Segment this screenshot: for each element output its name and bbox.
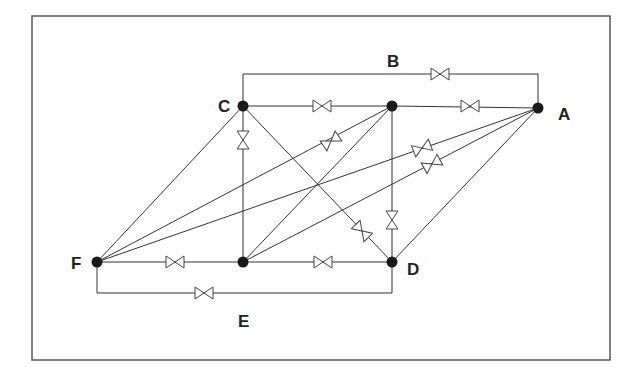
valve-icon-n2-d[interactable] [386, 211, 398, 229]
labels: CAFDBE [71, 52, 570, 331]
node-label-a: A [558, 105, 570, 124]
valve-icon-n2-a[interactable] [461, 100, 479, 112]
pipe-d-a [392, 108, 538, 262]
valve-icon-loop-e[interactable] [195, 287, 213, 299]
node-label-c: C [218, 97, 230, 116]
pipe-n5-a [243, 108, 538, 262]
valve-icon-loop-b[interactable] [431, 68, 449, 80]
valve-icon-f-n5[interactable] [166, 256, 184, 268]
node-d [387, 257, 398, 268]
loop-label-e: E [238, 312, 249, 331]
node-f [92, 257, 103, 268]
pipe-f-n2 [97, 106, 392, 262]
node-n5 [238, 257, 249, 268]
valve-icon-n5-a[interactable] [421, 154, 443, 173]
node-c [238, 101, 249, 112]
pipes [97, 106, 538, 262]
node-label-f: F [71, 254, 81, 273]
loop-label-b: B [387, 52, 399, 71]
pipe-network-diagram: CAFDBE [0, 0, 639, 381]
pipe-f-c [97, 106, 243, 262]
node-label-d: D [407, 260, 419, 279]
node-n2 [387, 101, 398, 112]
pipe-f-a [97, 108, 538, 262]
valve-icon-c-n5[interactable] [237, 131, 249, 149]
valve-icon-c-n2[interactable] [313, 100, 331, 112]
valve-icon-n5-d[interactable] [314, 256, 332, 268]
node-a [533, 103, 544, 114]
valve-icon-f-a[interactable] [411, 139, 432, 157]
